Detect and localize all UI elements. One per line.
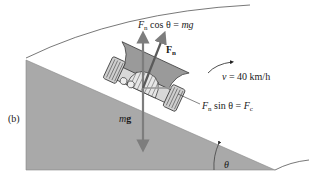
- panel-label-text: (b): [8, 113, 20, 124]
- equation-text: sin θ =: [212, 100, 244, 111]
- symbol-g: g: [126, 113, 131, 124]
- label-mg: mg: [119, 114, 131, 124]
- lower-road-curve: [275, 160, 309, 170]
- symbol-mg: mg: [181, 19, 193, 30]
- subscript-n: n: [172, 49, 176, 57]
- subscript-c: c: [250, 105, 253, 113]
- equation-text: cos θ =: [148, 19, 182, 30]
- label-fn-cos-theta: Fn cos θ = mg: [138, 20, 194, 32]
- panel-label: (b): [8, 114, 20, 124]
- velocity-value: = 40 km/h: [226, 71, 270, 82]
- label-fn-sin-theta: Fn sin θ = Fc: [202, 101, 253, 113]
- label-fn: Fn: [166, 45, 176, 57]
- label-theta: θ: [224, 160, 229, 170]
- symbol-theta: θ: [224, 159, 229, 170]
- label-velocity: v = 40 km/h: [222, 72, 270, 82]
